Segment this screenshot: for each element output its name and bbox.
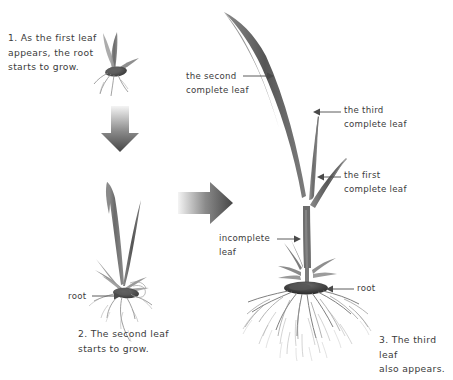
growth-stages-diagram: 1. As the first leaf appears, the root s… [0,0,453,380]
label-root-stage3: root [357,282,375,296]
label-second-complete-leaf: the second complete leaf [186,70,249,97]
stage-2-plant [89,182,152,342]
stage-1-caption: 1. As the first leaf appears, the root s… [8,31,97,75]
label-first-complete-leaf: the first complete leaf [344,169,407,196]
label-root-stage2: root [68,290,86,304]
flow-arrow-down [101,106,139,152]
pointer-arrows [92,73,354,300]
root-stage2-pointer [92,293,121,300]
first-complete-leaf-pointer [317,174,341,181]
label-incomplete-leaf: incomplete leaf [219,232,270,259]
stage-3-caption: 3. The third leaf also appears. [379,333,453,377]
stage-2-caption: 2. The second leaf starts to grow. [78,327,169,356]
root-stage3-pointer [326,286,354,293]
stage-1-plant [94,32,139,96]
label-third-complete-leaf: the third complete leaf [344,104,407,131]
third-complete-leaf-pointer [313,109,341,116]
flow-arrow-right [178,182,233,224]
incomplete-leaf-pointer [277,236,301,243]
